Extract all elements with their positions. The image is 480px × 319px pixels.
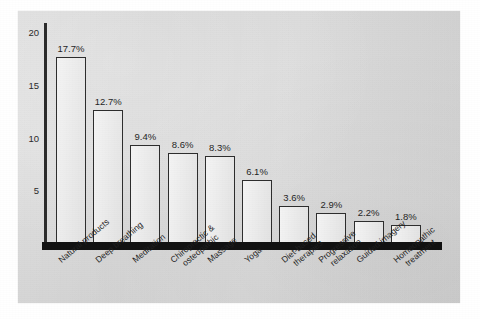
bar xyxy=(56,57,86,244)
bar-value-label: 1.8% xyxy=(382,211,430,222)
bar-value-label: 8.3% xyxy=(196,142,244,153)
bar xyxy=(168,153,198,244)
bar-value-label: 17.7% xyxy=(47,43,95,54)
bar xyxy=(242,180,272,244)
bar-chart-figure: 2015105 Natural productsDeep breathingMe… xyxy=(0,0,480,319)
plot-area: 2015105 Natural productsDeep breathingMe… xyxy=(18,11,460,303)
bar-value-label: 6.1% xyxy=(233,166,281,177)
bar-value-label: 12.7% xyxy=(84,96,132,107)
